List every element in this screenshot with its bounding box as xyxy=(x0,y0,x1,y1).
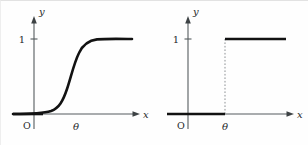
y-tick-label-1: 1 xyxy=(173,34,179,45)
x-tick-label-theta: θ xyxy=(73,121,79,132)
x-axis-label: x xyxy=(143,109,149,120)
y-tick-label-1: 1 xyxy=(19,34,25,45)
sigmoid-curve xyxy=(13,39,132,114)
x-axis-arrow-icon xyxy=(287,111,295,117)
sigmoid-panel: y x 1 O θ xyxy=(1,1,155,145)
y-axis-arrow-icon xyxy=(31,16,37,24)
x-tick-label-theta: θ xyxy=(222,121,228,132)
step-panel: y x 1 O θ xyxy=(155,1,308,145)
x-axis-label: x xyxy=(297,109,303,120)
origin-label: O xyxy=(23,120,31,131)
origin-label: O xyxy=(177,120,185,131)
figure-root: y x 1 O θ y x 1 O θ xyxy=(0,0,308,145)
y-axis-label: y xyxy=(38,6,45,17)
x-axis-arrow-icon xyxy=(133,111,141,117)
y-axis-label: y xyxy=(192,6,199,17)
y-axis-arrow-icon xyxy=(185,16,191,24)
